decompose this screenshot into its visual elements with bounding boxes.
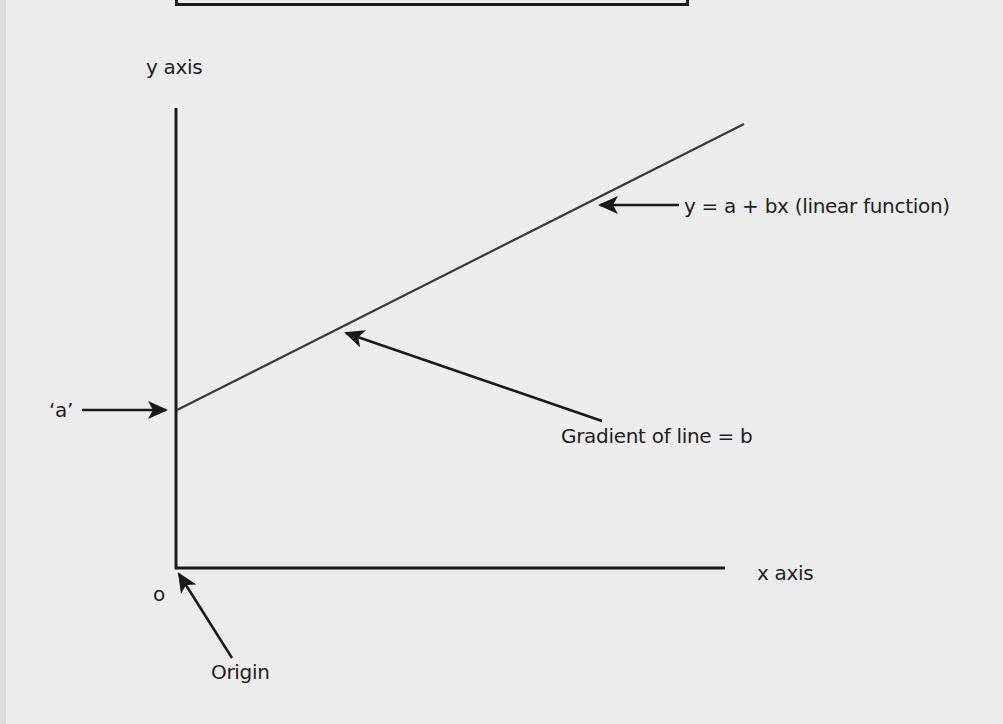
- intercept-label: ‘a’: [49, 398, 73, 422]
- gradient-label: Gradient of line = b: [561, 424, 752, 448]
- linear-function-diagram: [0, 0, 1003, 724]
- axes: [175, 108, 725, 569]
- x-axis-label: x axis: [757, 561, 813, 585]
- linear-function-line: [177, 124, 744, 410]
- gradient-arrow-icon: [346, 333, 602, 421]
- origin-arrow-icon: [179, 574, 232, 658]
- origin-symbol-label: o: [153, 582, 165, 606]
- y-axis-label: y axis: [146, 55, 202, 79]
- origin-label: Origin: [211, 660, 270, 684]
- diagram-page: y axis x axis ‘a’ y = a + bx (linear fun…: [0, 0, 1003, 724]
- function-label: y = a + bx (linear function): [684, 194, 950, 218]
